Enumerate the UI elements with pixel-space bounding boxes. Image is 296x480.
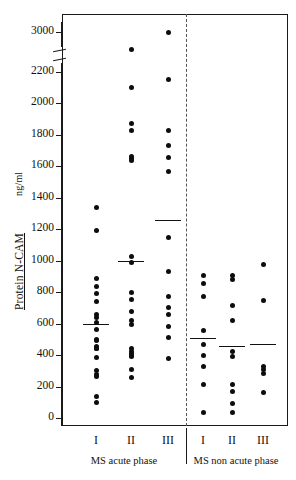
data-point: [129, 375, 134, 380]
y-tick-label-800: 800: [37, 285, 54, 297]
data-point: [94, 394, 99, 399]
data-point: [94, 284, 99, 289]
data-point: [230, 410, 235, 415]
data-point: [261, 390, 266, 395]
data-point: [129, 85, 134, 90]
data-point: [261, 262, 266, 267]
data-point: [230, 401, 235, 406]
data-point: [94, 228, 99, 233]
data-point: [129, 121, 134, 126]
data-point: [166, 324, 171, 329]
y-tick-label-400: 400: [37, 348, 54, 360]
data-point: [129, 309, 134, 314]
data-point: [201, 294, 206, 299]
y-tick-label-0: 0: [48, 411, 54, 423]
y-tick-400: [56, 355, 63, 356]
data-point: [201, 382, 206, 387]
data-point: [166, 77, 171, 82]
data-point: [261, 371, 266, 376]
phase-divider-bottom: [186, 428, 187, 464]
chart-canvas: Protein N-CAM ng/ml IIIIIIIIIIIIMS acute…: [0, 0, 296, 480]
x-group-label-2: II: [127, 433, 135, 448]
y-tick-800: [56, 292, 63, 293]
data-point: [166, 269, 171, 274]
data-point: [201, 410, 206, 415]
y-tick-1400: [56, 198, 63, 199]
y-tick-1800: [56, 135, 63, 136]
data-point: [129, 297, 134, 302]
data-point: [166, 356, 171, 361]
data-point: [129, 322, 134, 327]
y-tick-1200: [56, 229, 63, 230]
data-point: [94, 355, 99, 360]
data-point: [166, 169, 171, 174]
y-tick-200: [56, 387, 63, 388]
data-point: [230, 303, 235, 308]
y-tick-label-600: 600: [37, 317, 54, 329]
x-block-label-2: MS non acute phase: [194, 455, 279, 466]
y-tick-label-1200: 1200: [31, 222, 54, 234]
data-point: [230, 318, 235, 323]
y-axis-spine-upper: [61, 22, 62, 47]
data-point: [166, 235, 171, 240]
y-tick-2200: [56, 72, 63, 73]
y-axis-title: Protein N-CAM: [13, 233, 25, 310]
data-point: [201, 353, 206, 358]
data-point: [166, 294, 171, 299]
data-point: [201, 364, 206, 369]
mean-line: [155, 220, 181, 221]
y-tick-label-3000: 3000: [31, 25, 54, 37]
data-point: [129, 367, 134, 372]
x-group-label-1: I: [94, 433, 98, 448]
data-point: [201, 328, 206, 333]
x-block-label-1: MS acute phase: [91, 455, 157, 466]
data-point: [129, 290, 134, 295]
data-point: [201, 342, 206, 347]
data-point: [230, 277, 235, 282]
data-point: [230, 389, 235, 394]
y-tick-1600: [56, 166, 63, 167]
data-point: [166, 335, 171, 340]
mean-line: [190, 338, 216, 339]
data-point: [166, 305, 171, 310]
y-axis-spine-lower: [61, 63, 62, 426]
data-point: [201, 281, 206, 286]
data-point: [166, 143, 171, 148]
data-point: [166, 155, 171, 160]
y-tick-label-1600: 1600: [31, 159, 54, 171]
y-tick-3000: [56, 32, 63, 33]
x-group-label-4: I: [201, 433, 205, 448]
mean-line: [83, 324, 109, 325]
mean-line: [219, 346, 245, 347]
y-tick-label-2000: 2000: [31, 96, 54, 108]
data-point: [166, 312, 171, 317]
y-tick-0: [56, 418, 63, 419]
x-group-label-5: II: [228, 433, 236, 448]
y-tick-label-2200: 2200: [31, 65, 54, 77]
data-point: [129, 254, 134, 259]
data-point: [94, 346, 99, 351]
y-tick-label-1000: 1000: [31, 254, 54, 266]
y-tick-label-200: 200: [37, 380, 54, 392]
mean-line: [118, 261, 144, 262]
x-group-label-6: III: [257, 433, 269, 448]
y-tick-1000: [56, 261, 63, 262]
y-tick-label-1800: 1800: [31, 128, 54, 140]
data-point: [230, 354, 235, 359]
data-point: [94, 374, 99, 379]
data-point: [94, 276, 99, 281]
phase-divider-line: [186, 14, 187, 426]
data-point: [166, 30, 171, 35]
data-point: [94, 299, 99, 304]
data-point: [94, 327, 99, 332]
data-point: [129, 354, 134, 359]
data-point: [94, 400, 99, 405]
y-tick-600: [56, 324, 63, 325]
data-point: [94, 205, 99, 210]
data-point: [261, 298, 266, 303]
data-point: [230, 382, 235, 387]
data-point: [94, 291, 99, 296]
y-axis-unit-label: ng/ml: [13, 172, 24, 196]
data-point: [166, 128, 171, 133]
y-tick-label-1400: 1400: [31, 191, 54, 203]
